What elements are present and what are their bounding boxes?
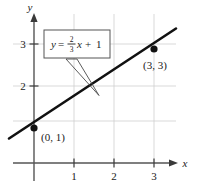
equation-lhs: y xyxy=(50,38,56,50)
equation-intercept: 1 xyxy=(96,38,102,50)
line-graph-figure: x y 1 2 3 2 3 (0, 1) (3, 3) y = 2 xyxy=(0,0,198,194)
point-marker-3-3 xyxy=(150,45,157,52)
point-label-origin-intercept: (0, 1) xyxy=(41,131,65,144)
equation-variable: x xyxy=(76,38,82,50)
equation-fraction-denominator: 3 xyxy=(70,45,74,54)
y-axis-label: y xyxy=(27,1,33,13)
x-tick-label-3: 3 xyxy=(151,170,157,182)
y-tick-label-2: 2 xyxy=(20,80,26,92)
point-marker-0-1 xyxy=(30,124,37,131)
equation-plus-sign: + xyxy=(85,38,91,50)
y-tick-label-3: 3 xyxy=(20,38,26,50)
equation-fraction-numerator: 2 xyxy=(70,35,74,44)
equation-callout: y = 2 3 x + 1 xyxy=(44,30,110,58)
x-tick-label-2: 2 xyxy=(111,170,117,182)
y-axis-arrowhead xyxy=(30,13,37,22)
x-axis-arrowhead xyxy=(169,159,178,166)
x-axis-label: x xyxy=(182,157,188,169)
point-label-three-three: (3, 3) xyxy=(143,59,167,72)
equation-equals-sign: = xyxy=(58,38,64,50)
graph-canvas: x y 1 2 3 2 3 (0, 1) (3, 3) y = 2 xyxy=(0,0,198,194)
tick-marks xyxy=(30,44,155,168)
x-tick-label-1: 1 xyxy=(71,170,77,182)
